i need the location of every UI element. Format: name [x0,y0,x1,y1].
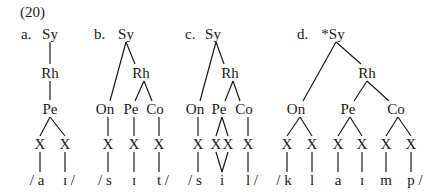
peak-node: Pe [212,102,227,117]
x-slot: X [35,137,46,152]
x-slot: X [381,137,392,152]
coda-node: Co [146,102,164,117]
coda-node: Co [235,102,253,117]
syllable-node: Sy [118,27,134,42]
x-slot: X [282,137,293,152]
x-slot: X [333,137,344,152]
onset-node: On [96,102,114,117]
tree-label: a. [21,27,31,42]
tree-label: b. [94,27,105,42]
x-slot: X [60,137,71,152]
peak-node: Pe [124,102,139,117]
rhyme-node: Rh [132,66,150,81]
example-number: (20) [20,5,45,20]
segment: i [220,173,224,188]
x-slot: X [154,137,165,152]
segment: ɪ [360,173,364,188]
segment: p / [407,173,422,188]
onset-node: On [186,102,204,117]
rhyme-node: Rh [41,66,59,81]
segment: / a [30,173,45,188]
peak-node: Pe [341,102,356,117]
segment: ɪ [132,173,136,188]
x-slot: X [211,137,222,152]
segment: / s [188,173,202,188]
rhyme-node: Rh [221,66,239,81]
x-slot: X [223,137,234,152]
syllable-node-ungrammatical: *Sy [321,27,344,42]
segment: ɪ / [63,173,75,188]
rhyme-node: Rh [358,66,376,81]
coda-node: Co [387,102,405,117]
syllable-node: Sy [205,27,221,42]
peak-node: Pe [43,102,58,117]
segment: l [310,173,314,188]
tree-label: c. [185,27,195,42]
segment: / s [98,173,112,188]
x-slot: X [357,137,368,152]
x-slot: X [406,137,417,152]
segment: / k [276,173,291,188]
x-slot: X [129,137,140,152]
onset-node: On [287,102,305,117]
x-slot: X [193,137,204,152]
x-slot: X [103,137,114,152]
tree-branches [0,0,446,193]
x-slot: X [243,137,254,152]
segment: a [335,173,342,188]
syllable-node: Sy [42,27,58,42]
x-slot: X [307,137,318,152]
segment: t / [157,173,169,188]
tree-label: d. [297,27,308,42]
segment: l / [246,173,258,188]
segment: m [380,173,392,188]
